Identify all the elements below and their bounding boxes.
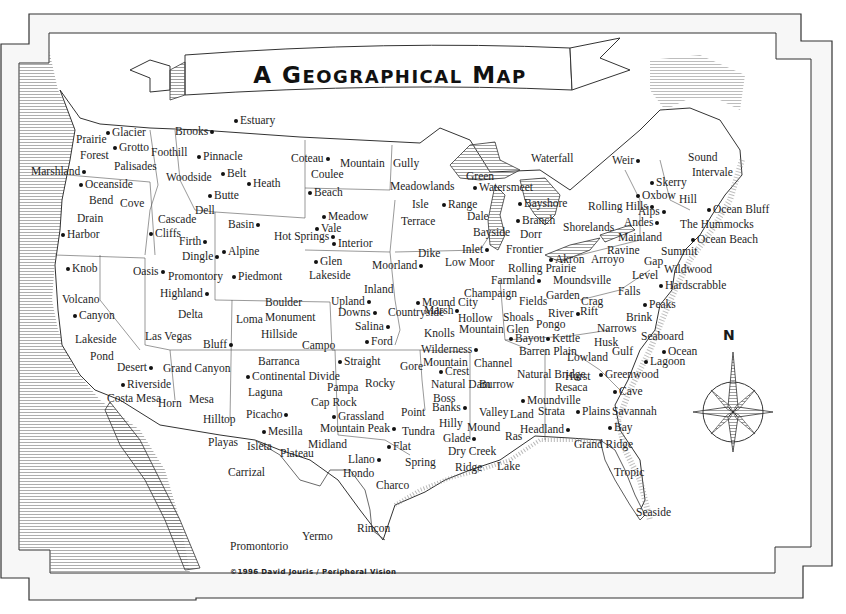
place-name: Banks xyxy=(432,401,461,413)
place-label: Resaca xyxy=(555,381,588,393)
place-name: Headland xyxy=(520,423,564,435)
city-dot-icon xyxy=(332,415,336,419)
place-label: Lowland xyxy=(567,351,608,363)
city-dot-icon xyxy=(315,227,319,231)
city-dot-icon xyxy=(332,242,336,246)
place-label: Mountain Peak xyxy=(320,422,398,434)
place-label: Weir xyxy=(612,154,642,166)
city-dot-icon xyxy=(599,373,603,377)
place-label: Butte xyxy=(206,189,239,201)
city-dot-icon xyxy=(215,255,219,259)
place-name: Cap Rock xyxy=(311,396,357,408)
place-name: Promontorio xyxy=(230,540,288,552)
place-name: Basin xyxy=(228,218,254,230)
city-dot-icon xyxy=(643,303,647,307)
place-label: Waterfall xyxy=(531,152,574,164)
place-label: Grand Canyon xyxy=(163,362,230,374)
place-label: Level xyxy=(632,269,658,281)
place-label: Promontorio xyxy=(230,540,288,552)
place-name: Rift xyxy=(580,305,598,317)
place-name: Boulder xyxy=(265,296,302,308)
place-label: Inlet xyxy=(462,243,491,255)
place-name: Bend xyxy=(89,194,113,206)
place-name: Point xyxy=(401,406,425,418)
city-dot-icon xyxy=(365,340,369,344)
place-name: Mountain Peak xyxy=(320,422,390,434)
place-label: Volcano xyxy=(62,293,99,305)
place-name: Dale xyxy=(467,210,489,222)
place-label: Rift xyxy=(580,305,598,317)
place-name: Cascade xyxy=(158,213,196,225)
place-name: Valley xyxy=(479,406,508,418)
place-label: The Hummocks xyxy=(680,218,754,230)
place-name: Seaside xyxy=(636,506,671,518)
place-name: Straight xyxy=(344,355,380,367)
place-label: Moorland xyxy=(372,259,425,271)
city-dot-icon xyxy=(161,270,165,274)
place-name: Brink xyxy=(626,311,652,323)
place-name: Moorland xyxy=(372,259,417,271)
place-label: Forest xyxy=(80,149,109,161)
place-name: Llano xyxy=(348,453,375,465)
place-label: Cliffs xyxy=(147,227,181,239)
city-dot-icon xyxy=(61,233,65,237)
place-label: Ocean Beach xyxy=(689,233,758,245)
place-name: Garden xyxy=(546,289,580,301)
place-label: Isleta xyxy=(247,440,272,452)
place-label: Glacier xyxy=(104,126,146,138)
place-label: Gulf xyxy=(612,345,633,357)
place-name: Glen xyxy=(320,255,342,267)
place-name: Meadowlands xyxy=(390,180,455,192)
place-name: Shoals xyxy=(503,311,534,323)
place-name: Canyon xyxy=(79,309,115,321)
city-dot-icon xyxy=(439,370,443,374)
place-name: Inland xyxy=(364,283,393,295)
place-name: Oasis xyxy=(133,265,159,277)
place-label: Tundra xyxy=(402,425,435,437)
place-label: Woodside xyxy=(166,171,212,183)
place-name: Lowland xyxy=(567,351,608,363)
place-label: Farmland xyxy=(491,274,543,286)
place-name: Glade xyxy=(443,432,470,444)
city-dot-icon xyxy=(662,350,666,354)
place-label: Gap xyxy=(644,255,663,267)
place-name: Yermo xyxy=(302,530,333,542)
place-label: Monument xyxy=(265,311,315,323)
place-label: Mesilla xyxy=(260,425,303,437)
place-label: Channel xyxy=(474,357,512,369)
place-label: Basin xyxy=(228,218,262,230)
city-dot-icon xyxy=(662,210,666,214)
place-name: Savannah xyxy=(612,405,657,417)
place-label: Pampa xyxy=(327,381,358,393)
place-name: Grand Ridge xyxy=(574,438,633,450)
place-name: Grassland xyxy=(338,410,384,422)
place-name: Forest xyxy=(80,149,109,161)
place-name: Falls xyxy=(618,285,640,297)
place-name: Kettle xyxy=(552,332,580,344)
place-label: Skerry xyxy=(648,176,687,188)
place-name: Branch xyxy=(522,214,555,226)
place-label: Shorelands xyxy=(563,221,614,233)
place-label: Coulee xyxy=(311,168,344,180)
place-label: Range xyxy=(440,198,477,210)
place-label: Wildwood xyxy=(664,263,712,275)
place-name: Rocky xyxy=(365,377,395,389)
place-name: Drain xyxy=(77,212,103,224)
city-dot-icon xyxy=(392,427,396,431)
place-label: Bend xyxy=(89,194,113,206)
city-dot-icon xyxy=(516,219,520,223)
place-name: Sound xyxy=(688,151,717,163)
place-label: Fields xyxy=(519,295,547,307)
place-label: Downs xyxy=(338,306,379,318)
place-name: Crest xyxy=(445,365,469,377)
place-label: Mountain xyxy=(340,157,385,169)
place-label: Charco xyxy=(376,479,409,491)
place-name: Mesa xyxy=(189,393,214,405)
place-label: Rolling Prairie xyxy=(508,262,576,274)
city-dot-icon xyxy=(222,250,226,254)
place-name: Fields xyxy=(519,295,547,307)
place-label: Firth xyxy=(179,235,209,247)
city-dot-icon xyxy=(566,428,570,432)
place-label: Costa Mesa xyxy=(107,392,161,404)
place-name: Farmland xyxy=(491,274,535,286)
